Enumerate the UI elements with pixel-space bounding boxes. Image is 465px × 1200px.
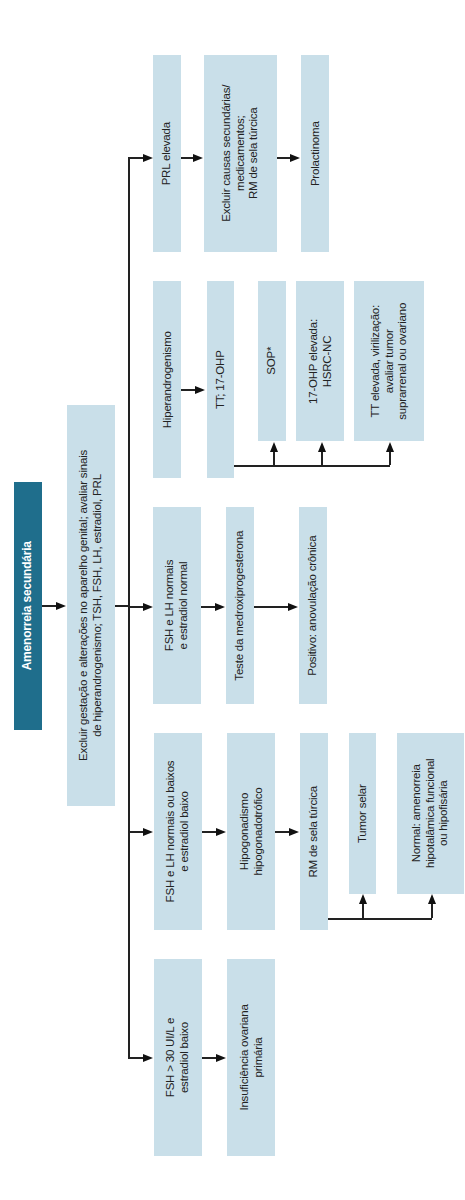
arrow-right-icon bbox=[56, 602, 66, 610]
branch-prl-step-2: Prolactinoma bbox=[301, 55, 329, 252]
connector bbox=[128, 157, 143, 159]
arrow-up-icon bbox=[359, 894, 367, 904]
branch-hiper-outcome-3: TT elevada, virilização: avaliar tumor s… bbox=[354, 281, 424, 441]
arrow-right-icon bbox=[288, 603, 298, 611]
connector bbox=[181, 157, 193, 159]
arrow-right-icon bbox=[216, 828, 226, 836]
arrow-up-icon bbox=[318, 442, 326, 452]
connector bbox=[275, 831, 289, 833]
branch-normal-step-1: Teste da medroxiprogesterona bbox=[226, 507, 254, 704]
branch-prl-condition: PRL elevada bbox=[153, 55, 181, 252]
connector bbox=[128, 1057, 143, 1059]
branch-fsh-condition: FSH > 30 UI/L e estradiol baixo bbox=[154, 959, 202, 1156]
branch-hipo-step-1: Hipogonadismo hipogonadotrófico bbox=[227, 733, 275, 930]
arrow-right-icon bbox=[143, 603, 153, 611]
branch-fsh-step-1: Insuficiência ovariana primária bbox=[227, 959, 275, 1156]
connector bbox=[254, 606, 288, 608]
branch-hipo-outcome-2: Normal: amenorreia hipotalâmica funciona… bbox=[397, 733, 464, 894]
arrow-right-icon bbox=[290, 154, 300, 162]
trunk-line-vertical bbox=[128, 157, 130, 1058]
branch-hiper-outcome-2: 17-OHP elevada: HSRC-NC bbox=[296, 281, 344, 441]
start-text: Excluir gestação e alterações no aparelh… bbox=[78, 450, 105, 761]
arrow-right-icon bbox=[195, 386, 205, 394]
branch-hiper-step-1: TT; 17-OHP bbox=[207, 281, 234, 478]
branch-hiper-outcome-1: SOP* bbox=[258, 281, 286, 441]
connector bbox=[202, 831, 216, 833]
connector bbox=[277, 157, 290, 159]
connector bbox=[42, 605, 56, 607]
connector bbox=[128, 831, 143, 833]
arrow-up-icon bbox=[386, 442, 394, 452]
branch-hipo-outcome-1: Tumor selar bbox=[349, 733, 376, 894]
arrow-right-icon bbox=[193, 154, 203, 162]
connector bbox=[328, 918, 432, 920]
branch-normal-condition: FSH e LH normais e estradiol normal bbox=[153, 507, 201, 704]
arrow-right-icon bbox=[143, 828, 153, 836]
title-box: Amenorreia secundária bbox=[14, 482, 42, 730]
start-box: Excluir gestação e alterações no aparelh… bbox=[67, 405, 115, 806]
connector bbox=[181, 389, 195, 391]
branch-hipo-condition: FSH e LH normais ou baixos e estradiol b… bbox=[154, 733, 202, 930]
branch-normal-step-2: Positivo: anovulação crônica bbox=[299, 507, 327, 704]
arrow-right-icon bbox=[143, 1054, 153, 1062]
arrow-right-icon bbox=[216, 1054, 226, 1062]
branch-hiper-condition: Hiperandrogenismo bbox=[153, 281, 181, 478]
connector bbox=[128, 606, 143, 608]
connector bbox=[234, 465, 390, 467]
arrow-right-icon bbox=[289, 828, 299, 836]
arrow-up-icon bbox=[428, 894, 436, 904]
connector bbox=[201, 606, 215, 608]
branch-hipo-step-2: RM de sela túrcica bbox=[300, 733, 328, 930]
arrow-right-icon bbox=[215, 603, 225, 611]
trunk-line bbox=[115, 605, 129, 607]
branch-prl-step-1: Excluir causas secundárias/ medicamentos… bbox=[204, 55, 277, 252]
title-text: Amenorreia secundária bbox=[21, 541, 35, 670]
connector bbox=[202, 1057, 216, 1059]
arrow-right-icon bbox=[143, 154, 153, 162]
arrow-up-icon bbox=[270, 442, 278, 452]
